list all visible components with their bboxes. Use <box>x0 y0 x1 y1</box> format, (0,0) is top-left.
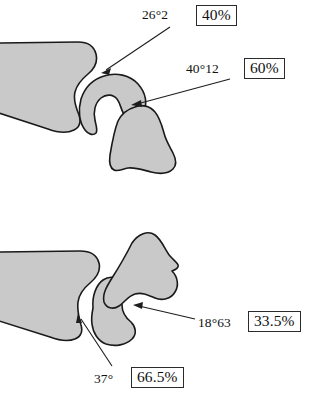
leader-18-63 <box>133 302 195 319</box>
percent-box-40: 40% <box>196 5 237 26</box>
angle-label-18-63: 18°63 <box>198 316 231 330</box>
percent-box-66-5: 66.5% <box>131 367 184 388</box>
figure-root: 26°2 40% 40°12 60% 18°63 33.5% 37° 66.5% <box>0 0 317 406</box>
lower-wrist-diagram <box>0 233 195 366</box>
angle-label-26-2: 26°2 <box>142 8 168 22</box>
upper-wrist-diagram <box>0 27 230 173</box>
angle-label-37: 37° <box>94 372 113 386</box>
percent-box-33-5: 33.5% <box>248 311 301 332</box>
angle-label-40-12: 40°12 <box>186 62 219 76</box>
percent-box-60: 60% <box>244 58 285 79</box>
radius-bottom-shape <box>0 251 99 340</box>
capitate-bottom-shape <box>104 233 179 308</box>
capitate-top-shape <box>110 106 176 174</box>
leader-26-2 <box>101 27 170 75</box>
